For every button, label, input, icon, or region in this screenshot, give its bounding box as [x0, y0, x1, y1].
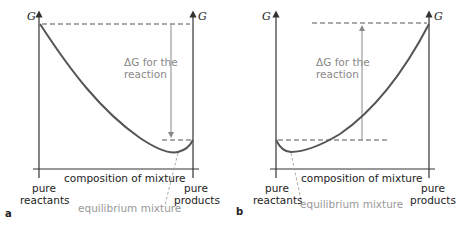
panel-label-b: b [236, 206, 243, 217]
pure-products-label: pure [421, 182, 445, 194]
delta-g-label: ΔG for the [124, 56, 178, 68]
panel-label-a: a [5, 208, 12, 219]
panel-b: G G ΔG for the reaction composition of m… [236, 10, 456, 217]
pure-reactants-label-2: reactants [253, 194, 303, 206]
delta-g-label-2: reaction [316, 68, 359, 80]
pure-reactants-label: pure [265, 182, 289, 194]
pure-products-label: pure [184, 182, 208, 194]
gibbs-curve [276, 24, 429, 152]
equilibrium-mixture-label: equilibrium mixture [300, 198, 403, 210]
g-label-left: G [262, 10, 271, 23]
panel-a: G G ΔG for the reaction composition of m… [5, 10, 220, 219]
composition-label: composition of mixture [301, 172, 423, 184]
gibbs-energy-diagrams: G G ΔG for the reaction composition of m… [0, 0, 463, 225]
delta-g-label-2: reaction [124, 68, 167, 80]
delta-g-label: ΔG for the [316, 56, 370, 68]
gibbs-curve [40, 24, 193, 152]
g-label-right: G [198, 10, 207, 23]
equilibrium-mixture-label: equilibrium mixture [78, 202, 181, 214]
pure-reactants-label-2: reactants [20, 194, 70, 206]
g-label-right: G [434, 10, 443, 23]
composition-label: composition of mixture [64, 172, 186, 184]
pure-reactants-label: pure [32, 182, 56, 194]
g-label-left: G [27, 10, 36, 23]
pure-products-label-2: products [410, 194, 456, 206]
